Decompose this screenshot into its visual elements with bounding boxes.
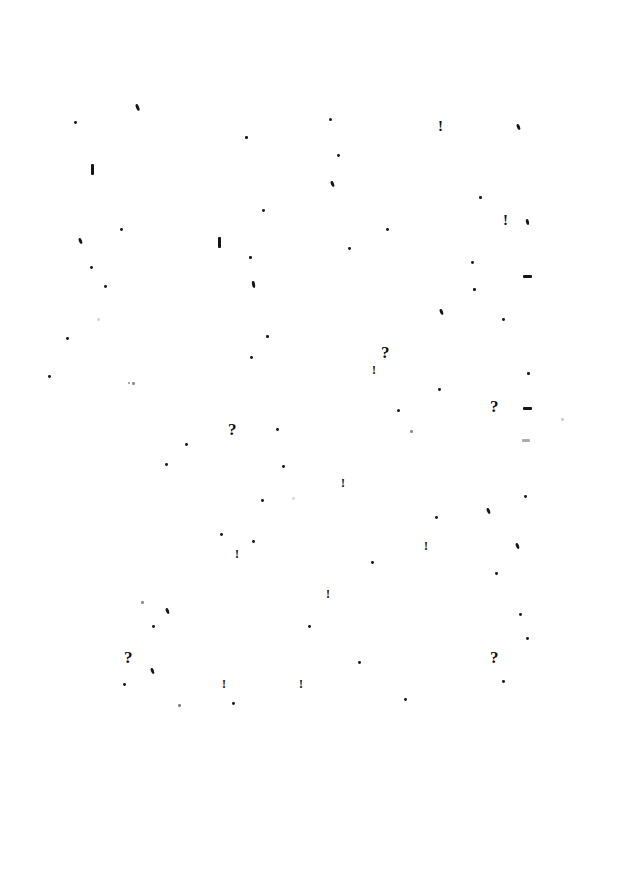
mark-comma [515,543,520,550]
mark-period [471,261,474,264]
mark-period [220,533,223,536]
mark-exclamation-mark: ! [341,477,345,489]
mark-period [120,228,123,231]
mark-exclamation-mark: ! [503,213,508,228]
mark-period [123,683,126,686]
mark-period [66,337,69,340]
mark-period [502,318,505,321]
mark-period [358,661,361,664]
mark-comma [135,104,140,111]
mark-exclamation-mark: ! [372,364,376,376]
scanned-page: !!?!??!!!!??!! [0,0,617,896]
mark-comma [516,124,521,131]
mark-question-mark: ? [228,421,237,438]
mark-question-mark: ? [490,649,499,666]
mark-exclamation-mark: ! [299,678,303,690]
mark-period [308,625,311,628]
mark-period [90,266,93,269]
mark-question-mark: ? [490,398,499,415]
mark-period [104,285,107,288]
mark-period [266,335,269,338]
mark-period [152,625,155,628]
mark-exclamation-mark: ! [235,548,239,560]
mark-dash [523,407,532,410]
mark-period [292,497,295,500]
mark-period [524,495,527,498]
mark-comma [150,668,155,675]
mark-period [232,702,235,705]
mark-question-mark: ? [381,344,390,361]
mark-exclamation-mark: ! [438,119,443,134]
mark-period [329,118,332,121]
mark-period [397,409,400,412]
mark-period [386,228,389,231]
mark-period [141,601,144,604]
mark-period [165,463,168,466]
mark-comma [486,508,491,515]
mark-dash [523,275,532,278]
mark-period [502,680,505,683]
mark-period [252,540,255,543]
mark-period [479,196,482,199]
mark-period [250,356,253,359]
mark-exclamation-mark: ! [326,588,330,600]
mark-period [178,704,181,707]
mark-period [276,428,279,431]
mark-period [185,443,188,446]
mark-period [404,698,407,701]
mark-period [337,154,340,157]
mark-period [97,318,100,321]
mark-period [473,288,476,291]
mark-exclamation-mark: ! [222,678,226,690]
mark-period [371,561,374,564]
mark-exclamation-mark: ! [424,540,428,552]
mark-period [261,499,264,502]
mark-comma [439,309,444,316]
mark-period [410,430,413,433]
mark-dash [522,439,530,442]
mark-vertical-stroke [218,237,221,248]
mark-speck-cluster [128,382,135,385]
mark-period [561,418,564,421]
mark-period [245,136,248,139]
mark-period [348,247,351,250]
mark-period [435,516,438,519]
mark-period [526,637,529,640]
mark-period [48,375,51,378]
mark-vertical-stroke [91,164,94,175]
punctuation-marks-layer: !!?!??!!!!??!! [0,0,617,896]
mark-comma [78,238,83,245]
mark-question-mark: ? [124,649,133,666]
mark-period [74,121,77,124]
mark-comma [251,281,255,288]
mark-comma [525,219,529,226]
mark-period [527,372,530,375]
mark-period [495,572,498,575]
mark-period [438,388,441,391]
mark-period [519,613,522,616]
mark-period [249,256,252,259]
mark-period [262,209,265,212]
mark-comma [330,181,335,188]
mark-comma [165,608,170,615]
mark-period [282,465,285,468]
